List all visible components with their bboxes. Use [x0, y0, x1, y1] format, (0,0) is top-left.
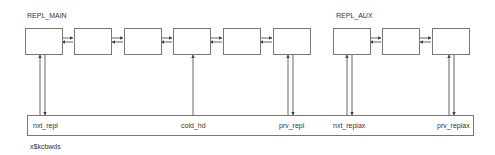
field-nxt-replax: nxt_replax	[333, 122, 365, 130]
repl-main-node-4	[173, 28, 211, 55]
x-kcbwds-structure	[27, 115, 474, 136]
repl-aux-node-2	[382, 28, 420, 55]
field-prv-repl: prv_repl	[279, 122, 304, 130]
replacement-list-diagram: REPL_MAIN REPL_AUX nxt_repl cold_hd prv_…	[0, 0, 495, 155]
repl-aux-title: REPL_AUX	[336, 12, 373, 20]
repl-main-title: REPL_MAIN	[27, 12, 67, 20]
field-cold-hd: cold_hd	[181, 122, 206, 130]
repl-aux-node-1	[333, 28, 371, 55]
repl-main-node-2	[74, 28, 112, 55]
structure-name: x$kcbwds	[30, 143, 61, 151]
field-prv-replax: prv_replax	[437, 122, 470, 130]
repl-main-node-6	[273, 28, 311, 55]
repl-main-node-5	[223, 28, 261, 55]
field-nxt-repl: nxt_repl	[33, 122, 58, 130]
repl-main-node-1	[25, 28, 63, 55]
repl-main-node-3	[124, 28, 162, 55]
repl-aux-node-3	[432, 28, 470, 55]
